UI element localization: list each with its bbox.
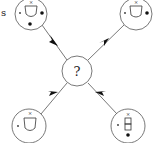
dot-right-icon [40,11,44,15]
small-dot-icon [117,124,119,126]
center-label: ? [74,64,81,79]
center-node: ? [62,56,92,86]
edge-bottom-right [88,83,117,114]
edge-bottom-left [41,83,67,114]
cross-icon: × [126,111,130,117]
diagram-canvas: ? s × × × × [0,0,154,143]
dot-right-icon [145,11,149,15]
node-bottom-left: × [12,109,46,143]
cross-icon: × [29,0,33,5]
arrowhead-top-right [99,38,109,46]
dot-bottom-icon [28,22,32,26]
cross-icon: × [28,110,32,116]
small-dot-icon [124,12,126,14]
node-top-right: × [120,0,152,30]
node-top-left: × [15,0,47,30]
small-dot-icon [17,125,19,127]
dot-bottom-icon [126,133,130,137]
cross-icon: × [134,0,138,5]
small-dot-icon [19,12,21,14]
partial-label: s [1,7,6,18]
node-bottom-right: × [111,109,145,143]
